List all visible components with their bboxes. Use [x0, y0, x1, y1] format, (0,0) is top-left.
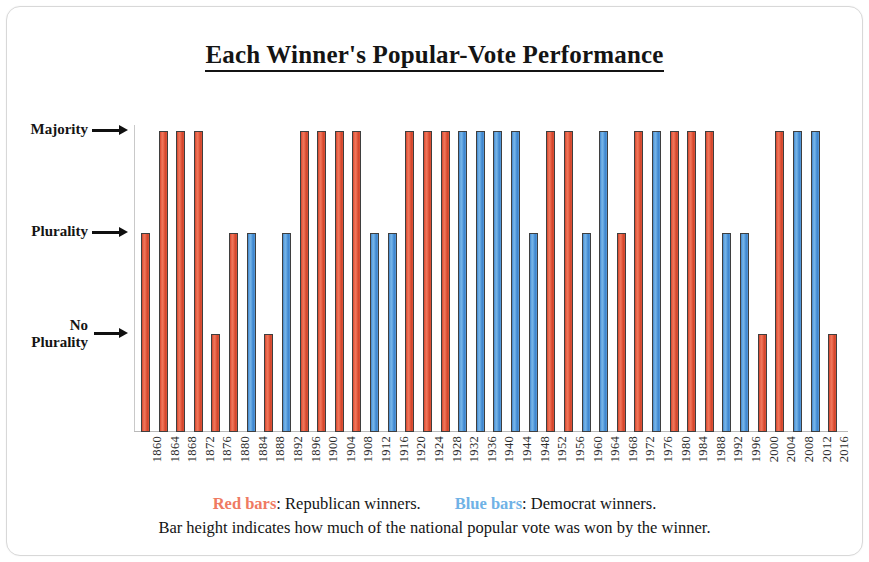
bar-1896 [300, 131, 309, 432]
chart-page: Each Winner's Popular-Vote Performance M… [0, 0, 869, 562]
x-tick-label-1968: 1968 [626, 436, 641, 496]
bar-1864 [159, 131, 168, 432]
bar-1876 [211, 334, 220, 432]
x-tick-label-2008: 2008 [802, 436, 817, 496]
arrow-head [119, 227, 128, 237]
arrow-shaft [92, 231, 119, 234]
x-tick-label-1916: 1916 [397, 436, 412, 496]
bar-1940 [493, 131, 502, 432]
plot-area [134, 125, 846, 432]
x-tick-label-1932: 1932 [467, 436, 482, 496]
x-tick-label-1940: 1940 [502, 436, 517, 496]
arrow-shaft [92, 129, 119, 132]
legend-red-text: : Republican winners. [276, 494, 420, 513]
bar-2012 [811, 131, 820, 432]
bar-1924 [423, 131, 432, 432]
x-tick-label-1888: 1888 [273, 436, 288, 496]
x-tick-label-1860: 1860 [150, 436, 165, 496]
y-axis-label-plurality-text: Plurality [14, 223, 88, 240]
y-axis-label-plurality: Plurality [14, 223, 88, 240]
page-title: Each Winner's Popular-Vote Performance [0, 41, 869, 69]
y-axis-arrow-no-plurality-icon [94, 328, 128, 339]
x-tick-label-1976: 1976 [661, 436, 676, 496]
y-axis-label-majority: Majority [14, 121, 88, 138]
bar-1868 [176, 131, 185, 432]
bar-1916 [388, 233, 397, 432]
bar-1936 [476, 131, 485, 432]
bar-1892 [282, 233, 291, 432]
x-tick-label-1960: 1960 [591, 436, 606, 496]
x-tick-label-1996: 1996 [749, 436, 764, 496]
y-axis-label-no-plurality: NoPlurality [14, 317, 88, 351]
bar-1988 [705, 131, 714, 432]
bar-1960 [582, 233, 591, 432]
bar-1928 [441, 131, 450, 432]
x-tick-label-1956: 1956 [573, 436, 588, 496]
x-tick-label-1908: 1908 [361, 436, 376, 496]
bar-1904 [335, 131, 344, 432]
legend-blue-swatch-label: Blue bars [455, 494, 522, 513]
bar-1912 [370, 233, 379, 432]
arrow-head [119, 125, 128, 135]
arrow-head [119, 328, 128, 338]
x-tick-label-2000: 2000 [767, 436, 782, 496]
x-tick-label-1944: 1944 [520, 436, 535, 496]
bar-1948 [529, 233, 538, 432]
x-tick-label-1948: 1948 [538, 436, 553, 496]
y-axis-label-no-plurality-line1: No [14, 317, 88, 334]
bar-1952 [546, 131, 555, 432]
x-tick-label-2012: 2012 [820, 436, 835, 496]
x-tick-label-1936: 1936 [485, 436, 500, 496]
x-tick-label-2004: 2004 [784, 436, 799, 496]
x-tick-label-1992: 1992 [731, 436, 746, 496]
y-axis-label-majority-text: Majority [14, 121, 88, 138]
chart-note: Bar height indicates how much of the nat… [0, 516, 869, 540]
x-tick-label-1900: 1900 [326, 436, 341, 496]
bar-1956 [564, 131, 573, 432]
chart-legend: Red bars: Republican winners.Blue bars: … [0, 492, 869, 540]
arrow-shaft [94, 332, 119, 335]
bar-1900 [317, 131, 326, 432]
bar-1996 [740, 233, 749, 432]
x-tick-label-1864: 1864 [168, 436, 183, 496]
x-tick-label-1904: 1904 [344, 436, 359, 496]
bar-1984 [687, 131, 696, 432]
x-tick-label-2016: 2016 [837, 436, 852, 496]
y-axis-arrow-majority-icon [92, 125, 128, 136]
x-tick-label-1972: 1972 [643, 436, 658, 496]
bar-1880 [229, 233, 238, 432]
bar-1992 [722, 233, 731, 432]
y-axis-arrow-plurality-icon [92, 227, 128, 238]
bar-1872 [194, 131, 203, 432]
bar-2016 [828, 334, 837, 432]
page-title-text: Each Winner's Popular-Vote Performance [205, 41, 663, 72]
x-tick-label-1980: 1980 [679, 436, 694, 496]
bar-1968 [617, 233, 626, 432]
legend-line: Red bars: Republican winners.Blue bars: … [0, 492, 869, 516]
legend-red-swatch-label: Red bars [213, 494, 277, 513]
x-tick-label-1924: 1924 [432, 436, 447, 496]
x-tick-label-1872: 1872 [203, 436, 218, 496]
bar-2000 [758, 334, 767, 432]
bar-1944 [511, 131, 520, 432]
x-tick-label-1880: 1880 [238, 436, 253, 496]
x-tick-label-1912: 1912 [379, 436, 394, 496]
x-tick-label-1964: 1964 [608, 436, 623, 496]
bar-1980 [670, 131, 679, 432]
bar-2008 [793, 131, 802, 432]
x-tick-label-1876: 1876 [220, 436, 235, 496]
bar-1888 [264, 334, 273, 432]
bar-1972 [634, 131, 643, 432]
bar-2004 [775, 131, 784, 432]
bar-1932 [458, 131, 467, 432]
x-tick-label-1920: 1920 [414, 436, 429, 496]
bar-1860 [141, 233, 150, 432]
bar-1884 [247, 233, 256, 432]
bar-1920 [405, 131, 414, 432]
x-tick-label-1868: 1868 [185, 436, 200, 496]
bar-1908 [352, 131, 361, 432]
x-tick-label-1892: 1892 [291, 436, 306, 496]
x-tick-label-1984: 1984 [696, 436, 711, 496]
x-tick-label-1884: 1884 [256, 436, 271, 496]
x-tick-label-1952: 1952 [555, 436, 570, 496]
